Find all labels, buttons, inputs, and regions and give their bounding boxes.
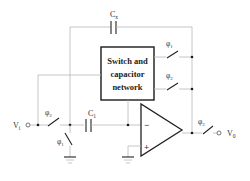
switch-blade bbox=[48, 118, 59, 126]
block-label-line2: capacitor bbox=[111, 69, 145, 79]
svg-text:φ1: φ1 bbox=[57, 137, 64, 147]
svg-text:φ2: φ2 bbox=[45, 108, 52, 118]
input-terminal: Vi bbox=[13, 121, 48, 131]
svg-text:φ2: φ2 bbox=[198, 117, 205, 127]
svg-text:V0: V0 bbox=[227, 129, 236, 139]
output-terminal: V0 bbox=[217, 129, 236, 139]
switch-input-series-phi2: φ2 bbox=[45, 108, 84, 126]
block-label-line3: network bbox=[112, 82, 142, 92]
switch-blade bbox=[167, 51, 178, 58]
op-amp: − + bbox=[128, 104, 182, 157]
switch-input-shunt-phi1: φ1 bbox=[57, 125, 72, 157]
noninverting-input-sign: + bbox=[144, 142, 149, 152]
svg-text:φ1: φ1 bbox=[166, 39, 173, 49]
switch-blade bbox=[167, 83, 178, 90]
ground-symbol-opamp bbox=[122, 157, 134, 163]
svg-text:C1: C1 bbox=[88, 109, 96, 119]
switch-capacitor-network-block: Switch and capacitor network bbox=[101, 47, 154, 100]
input-capacitor-c1: C1 bbox=[86, 109, 141, 132]
svg-text:φ2: φ2 bbox=[166, 71, 173, 81]
ground-symbol-left bbox=[64, 157, 76, 163]
svg-text:Vi: Vi bbox=[13, 121, 21, 131]
switch-blade bbox=[203, 126, 213, 134]
switch-output-phi2: φ2 bbox=[182, 117, 217, 134]
switch-network-phi2: φ2 bbox=[154, 71, 193, 90]
circuit-schematic: Cx Switch and capacitor network φ1 φ2 Vi bbox=[0, 0, 250, 181]
block-label-line1: Switch and bbox=[107, 56, 148, 66]
inverting-input-sign: − bbox=[144, 120, 149, 130]
switch-network-phi1: φ1 bbox=[154, 39, 193, 58]
cx-label: Cx bbox=[110, 10, 118, 20]
switch-blade bbox=[65, 133, 72, 145]
